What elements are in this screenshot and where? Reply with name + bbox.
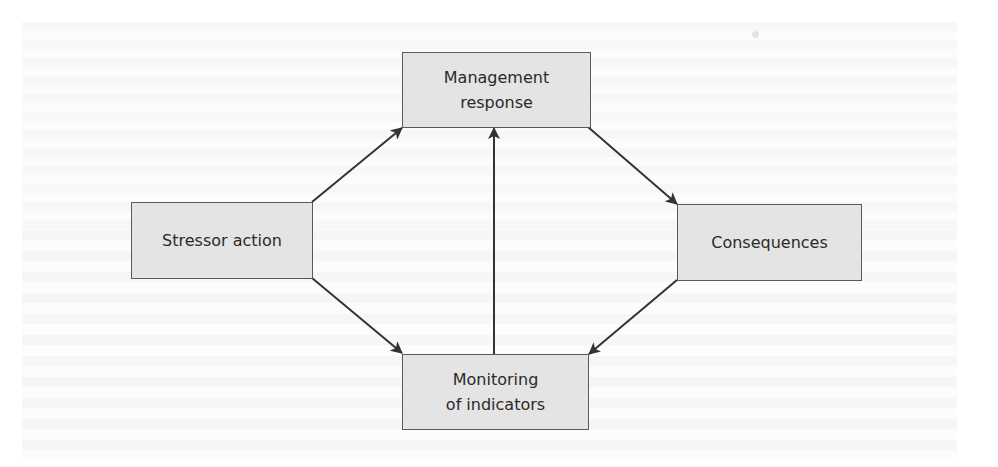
arrow-management-to-consequences <box>588 127 677 204</box>
arrow-stressor-to-monitoring <box>312 278 402 353</box>
node-management-response: Management response <box>402 52 591 128</box>
node-label-line: of indicators <box>446 392 545 417</box>
node-label-line: Management <box>444 65 549 90</box>
node-label-line: Monitoring <box>453 367 539 392</box>
node-monitoring-of-indicators: Monitoring of indicators <box>402 354 589 430</box>
arrow-stressor-to-management <box>312 128 402 202</box>
node-label-line: response <box>460 90 533 115</box>
node-label-line: Consequences <box>711 230 828 255</box>
node-label-line: Stressor action <box>162 228 282 253</box>
node-stressor-action: Stressor action <box>131 202 313 279</box>
node-consequences: Consequences <box>677 204 862 281</box>
arrow-consequences-to-monitoring <box>589 280 677 354</box>
